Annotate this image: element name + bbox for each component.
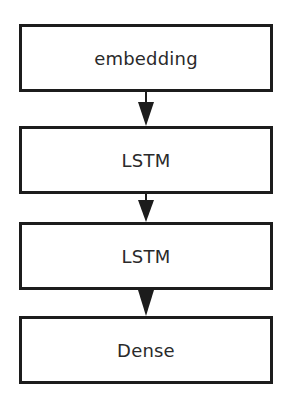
node-label: LSTM (122, 246, 171, 267)
arrow-lstm2-to-dense (138, 290, 154, 316)
arrow-lstm1-to-lstm2 (138, 194, 154, 222)
node-label: LSTM (122, 150, 171, 171)
node-lstm-1: LSTM (19, 126, 273, 194)
node-label: Dense (117, 340, 175, 361)
node-embedding: embedding (19, 24, 273, 92)
arrow-down-icon (138, 194, 154, 222)
node-dense: Dense (19, 316, 273, 384)
arrow-down-icon (138, 92, 154, 126)
arrow-down-icon (138, 290, 154, 316)
arrow-embedding-to-lstm1 (138, 92, 154, 126)
node-lstm-2: LSTM (19, 222, 273, 290)
node-label: embedding (94, 48, 198, 69)
